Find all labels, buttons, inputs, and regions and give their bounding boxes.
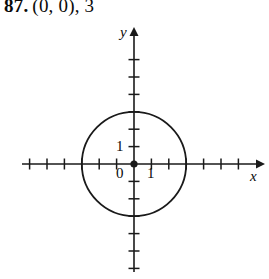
- x-axis-label: x: [250, 169, 257, 184]
- circle-graph-figure: 87.(0, 0), 3: [0, 0, 269, 279]
- y-axis-arrowhead: [130, 27, 139, 36]
- coordinate-plane: [0, 0, 269, 279]
- center-point-marker: [130, 160, 137, 167]
- x-axis-tick-label-one: 1: [147, 166, 155, 181]
- plot-svg: [0, 0, 269, 279]
- y-axis-label: y: [120, 25, 127, 40]
- y-axis-tick-label-one: 1: [116, 139, 124, 154]
- x-axis-arrowhead: [256, 160, 265, 169]
- origin-label: 0: [116, 166, 124, 181]
